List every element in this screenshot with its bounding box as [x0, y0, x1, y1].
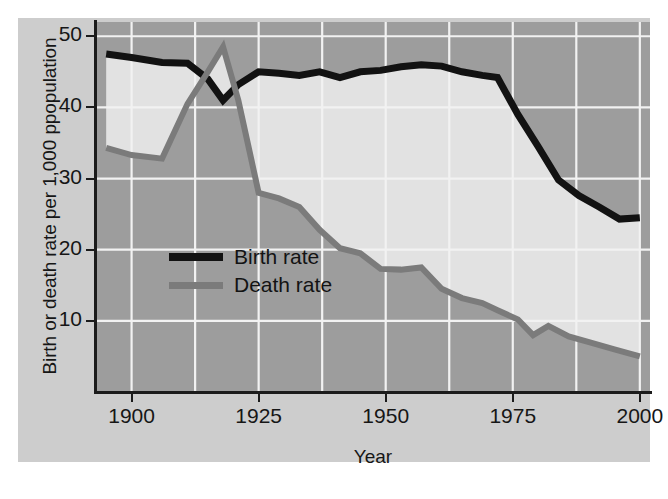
legend-swatch-death-rate: [169, 282, 223, 289]
y-tick-label: 50: [34, 22, 82, 46]
y-tick-mark: [86, 106, 95, 108]
x-tick-label: 2000: [605, 404, 668, 428]
x-tick-label: 1975: [478, 404, 548, 428]
legend-label-birth-rate: Birth rate: [234, 245, 319, 269]
legend-item-birth-rate: Birth rate: [169, 243, 332, 271]
legend-item-death-rate: Death rate: [169, 271, 332, 299]
plot-area: [96, 22, 650, 392]
x-axis-title: Year: [96, 446, 650, 468]
y-tick-mark: [86, 320, 95, 322]
x-tick-label: 1900: [97, 404, 167, 428]
x-tick-label: 1950: [351, 404, 421, 428]
x-tick-mark: [131, 394, 133, 402]
x-tick-mark: [639, 394, 641, 402]
demographic-transition-chart: Birth or death rate per 1,000 ppopulatio…: [0, 0, 668, 499]
y-axis-title: Birth or death rate per 1,000 ppopulatio…: [39, 0, 61, 416]
x-tick-mark: [385, 394, 387, 402]
y-tick-label: 30: [34, 165, 82, 189]
x-tick-mark: [512, 394, 514, 402]
y-axis-spine: [94, 20, 97, 394]
chart-legend: Birth rate Death rate: [169, 243, 332, 299]
y-tick-label: 20: [34, 236, 82, 260]
legend-swatch-birth-rate: [169, 253, 223, 261]
y-tick-label: 10: [34, 307, 82, 331]
x-axis-spine: [94, 391, 652, 394]
x-tick-label: 1925: [224, 404, 294, 428]
y-tick-mark: [86, 178, 95, 180]
y-tick-mark: [86, 249, 95, 251]
y-tick-label: 40: [34, 93, 82, 117]
plot-svg: [96, 22, 650, 392]
between-curves-band: [106, 47, 640, 357]
x-tick-mark: [258, 394, 260, 402]
legend-label-death-rate: Death rate: [234, 273, 332, 297]
y-tick-mark: [86, 35, 95, 37]
